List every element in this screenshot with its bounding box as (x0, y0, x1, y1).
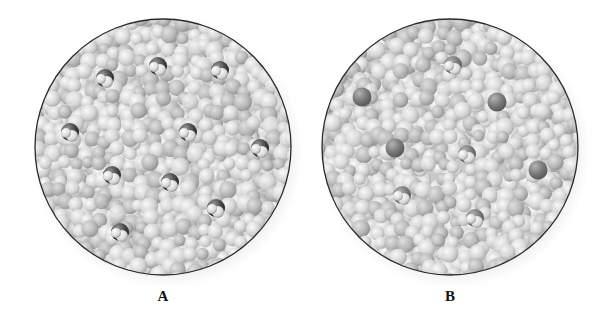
panel-b-label: B (430, 288, 470, 305)
solute-molecule (529, 161, 548, 180)
panel-a-label: A (143, 288, 183, 305)
solute-molecule (488, 93, 507, 112)
solute-molecule (353, 88, 372, 107)
particle-diagram (0, 0, 608, 315)
solute-molecule (386, 139, 405, 158)
